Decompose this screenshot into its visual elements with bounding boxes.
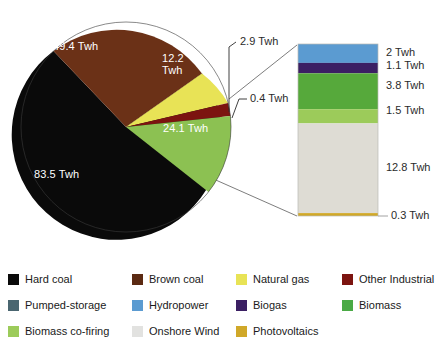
legend-swatch-biogas: [236, 300, 247, 311]
legend-swatch-natural-gas: [236, 274, 247, 285]
bar-segment-biomass-co-firing[interactable]: [298, 109, 378, 123]
leader-2-9: [229, 42, 236, 112]
legend-label-hydropower: Hydropower: [149, 299, 208, 311]
legend-swatch-hard-coal: [8, 274, 19, 285]
legend-row-1: Hard coal Brown coal Natural gas Other I…: [8, 266, 446, 292]
callout-label-2-9: 2.9 Twh: [240, 35, 278, 47]
legend-label-other-industrial: Other Industrial: [359, 273, 434, 285]
bar-segment-onshore-wind[interactable]: [298, 123, 378, 213]
legend-label-onshore-wind: Onshore Wind: [149, 325, 219, 337]
pie-chart: [12, 22, 231, 240]
bar-label-hydropower: 2 Twh: [386, 46, 415, 58]
legend-label-biomass-co-firing: Biomass co-firing: [25, 325, 109, 337]
callout-leaders: [229, 42, 247, 118]
legend-item-photovoltaics[interactable]: Photovoltaics: [236, 318, 318, 344]
legend-item-biogas[interactable]: Biogas: [236, 292, 287, 318]
legend-item-onshore-wind[interactable]: Onshore Wind: [132, 318, 219, 344]
legend-label-brown-coal: Brown coal: [149, 273, 203, 285]
legend-item-biomass[interactable]: Biomass: [342, 292, 401, 318]
bar-label-photovoltaics: 0.3 Twh: [391, 209, 429, 221]
legend-item-pumped-storage[interactable]: Pumped-storage: [8, 292, 106, 318]
legend: Hard coal Brown coal Natural gas Other I…: [8, 266, 446, 356]
legend-swatch-biomass-co-firing: [8, 326, 19, 337]
legend-row-2: Pumped-storage Hydropower Biogas Biomass: [8, 292, 446, 318]
legend-swatch-other-industrial: [342, 274, 353, 285]
connector-bottom: [209, 177, 297, 216]
legend-swatch-onshore-wind: [132, 326, 143, 337]
stacked-bar: [298, 44, 378, 216]
legend-swatch-photovoltaics: [236, 326, 247, 337]
legend-label-hard-coal: Hard coal: [25, 273, 72, 285]
legend-item-other-industrial[interactable]: Other Industrial: [342, 266, 434, 292]
callout-label-0-4: 0.4 Twh: [250, 92, 288, 104]
bar-segment-biomass[interactable]: [298, 73, 378, 109]
legend-label-biogas: Biogas: [253, 299, 287, 311]
legend-item-biomass-co-firing[interactable]: Biomass co-firing: [8, 318, 109, 344]
legend-label-biomass: Biomass: [359, 299, 401, 311]
legend-row-3: Biomass co-firing Onshore Wind Photovolt…: [8, 318, 446, 344]
bar-segment-photovoltaics[interactable]: [298, 213, 378, 216]
legend-swatch-hydropower: [132, 300, 143, 311]
legend-label-pumped-storage: Pumped-storage: [25, 299, 106, 311]
bar-segment-biogas[interactable]: [298, 63, 378, 73]
legend-item-brown-coal[interactable]: Brown coal: [132, 266, 203, 292]
bar-label-biomass-co-firing: 1.5 Twh: [386, 104, 424, 116]
legend-swatch-brown-coal: [132, 274, 143, 285]
legend-item-natural-gas[interactable]: Natural gas: [236, 266, 309, 292]
legend-swatch-pumped-storage: [8, 300, 19, 311]
legend-item-hydropower[interactable]: Hydropower: [132, 292, 208, 318]
legend-label-photovoltaics: Photovoltaics: [253, 325, 318, 337]
connector-top: [229, 45, 297, 99]
bar-label-onshore-wind: 12.8 Twh: [386, 161, 430, 173]
legend-item-hard-coal[interactable]: Hard coal: [8, 266, 72, 292]
chart-canvas: 49.4 Twh 83.5 Twh 12.2 Twh 24.1 Twh 2.9 …: [0, 0, 446, 361]
legend-label-natural-gas: Natural gas: [253, 273, 309, 285]
bar-label-biogas: 1.1 Twh: [386, 59, 424, 71]
bar-label-biomass: 3.8 Twh: [386, 79, 424, 91]
leader-0-4: [232, 99, 247, 118]
bar-segment-hydropower[interactable]: [298, 44, 378, 63]
legend-swatch-biomass: [342, 300, 353, 311]
